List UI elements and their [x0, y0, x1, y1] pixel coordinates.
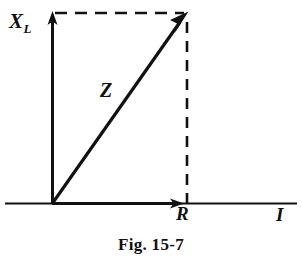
reactance-axis-label-main: X: [9, 9, 24, 33]
current-axis-label: I: [276, 205, 283, 224]
reactance-axis-label-subscript: L: [24, 21, 32, 36]
resistance-vector-label: R: [176, 204, 189, 223]
impedance-vector-line: [53, 22, 180, 203]
impedance-phasor-diagram: [0, 0, 302, 261]
reactance-axis-label: XL: [9, 11, 32, 35]
impedance-vector-label: Z: [100, 80, 112, 100]
figure-caption: Fig. 15-7: [0, 236, 302, 253]
figure-container: XL Z R I Fig. 15-7: [0, 0, 302, 261]
